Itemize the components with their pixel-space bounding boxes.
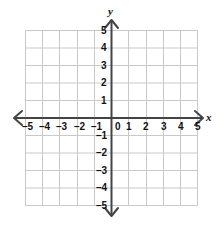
x-axis-label: x bbox=[206, 112, 212, 123]
y-tick-label-neg4: –4 bbox=[96, 183, 107, 193]
grid-and-axes bbox=[0, 0, 224, 229]
x-tick-label-2: 2 bbox=[143, 122, 149, 132]
x-tick-label-neg2: –2 bbox=[74, 122, 85, 132]
x-tick-label-4: 4 bbox=[178, 122, 184, 132]
y-tick-label-3: 3 bbox=[101, 61, 107, 71]
y-tick-label-1: 1 bbox=[101, 96, 107, 106]
x-tick-label-neg3: –3 bbox=[56, 122, 67, 132]
y-tick-label-2: 2 bbox=[101, 78, 107, 88]
x-tick-label-5: 5 bbox=[195, 122, 201, 132]
y-tick-label-5: 5 bbox=[101, 26, 107, 36]
y-tick-label-neg2: –2 bbox=[96, 148, 107, 158]
x-tick-label-0: 0 bbox=[115, 122, 121, 132]
y-tick-label-neg3: –3 bbox=[96, 166, 107, 176]
coordinate-plane: –5 –4 –3 –2 –1 0 1 2 3 4 5 5 4 3 2 1 –1 … bbox=[0, 0, 224, 229]
x-tick-label-3: 3 bbox=[161, 122, 167, 132]
x-tick-label-neg5: –5 bbox=[22, 122, 33, 132]
y-tick-label-neg1: –1 bbox=[96, 131, 107, 141]
x-tick-label-1: 1 bbox=[126, 122, 132, 132]
y-tick-label-4: 4 bbox=[101, 43, 107, 53]
x-tick-label-neg4: –4 bbox=[39, 122, 50, 132]
y-axis-label: y bbox=[108, 6, 113, 17]
y-tick-label-neg5: –5 bbox=[96, 201, 107, 211]
